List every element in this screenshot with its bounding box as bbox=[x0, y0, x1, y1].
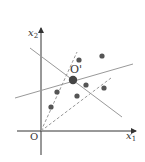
data-points bbox=[48, 53, 106, 109]
data-point bbox=[101, 85, 106, 90]
origin-label: O bbox=[30, 131, 38, 142]
data-point bbox=[54, 89, 59, 94]
data-point bbox=[83, 82, 88, 87]
data-point bbox=[99, 53, 104, 58]
data-point bbox=[48, 104, 53, 109]
x1-axis-label: x1 bbox=[126, 130, 136, 143]
center-point bbox=[69, 76, 77, 84]
data-point bbox=[76, 57, 81, 62]
x2-axis-label: x2 bbox=[28, 27, 38, 40]
center-label: O' bbox=[70, 63, 82, 76]
data-point bbox=[74, 93, 79, 98]
coordinate-diagram: O' O x1 x2 bbox=[0, 0, 145, 162]
